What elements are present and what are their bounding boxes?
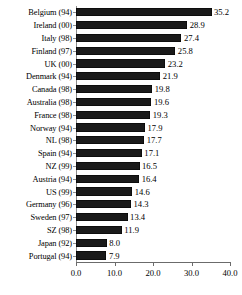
category-label: Belgium (94) [0, 8, 72, 17]
category-label: Ireland (00) [0, 21, 72, 30]
bar-track: 17.7 [76, 134, 230, 147]
bar-value-label: 27.4 [181, 33, 199, 42]
y-axis-tick [73, 38, 76, 39]
category-label: US (99) [0, 187, 72, 196]
bar-row: Japan (92)8.0 [0, 236, 242, 249]
bar [76, 162, 140, 170]
bar-value-label: 19.8 [152, 85, 170, 94]
bar-row: US (99)14.6 [0, 185, 242, 198]
bar [76, 8, 212, 16]
bar-track: 28.9 [76, 19, 230, 32]
bar-value-label: 23.2 [165, 59, 183, 68]
bar-row: Norway (94)17.9 [0, 121, 242, 134]
bar-row: Germany (96)14.3 [0, 198, 242, 211]
bar [76, 149, 142, 157]
bar [76, 123, 145, 131]
category-label: Japan (92) [0, 238, 72, 247]
bar-value-label: 17.1 [142, 149, 160, 158]
y-axis-tick [73, 192, 76, 193]
bar [76, 213, 128, 221]
bar-row: Italy (98)27.4 [0, 32, 242, 45]
y-axis-tick [73, 115, 76, 116]
y-axis-tick [73, 204, 76, 205]
x-axis-tick-label: 30.0 [184, 268, 199, 278]
bar [76, 34, 181, 42]
bar-value-label: 35.2 [212, 8, 230, 17]
y-axis-tick [73, 153, 76, 154]
x-axis-tick-label: 40.0 [222, 268, 237, 278]
bar-row: SZ (98)11.9 [0, 224, 242, 237]
bar [76, 136, 144, 144]
bar-row: Portugal (94)7.9 [0, 249, 242, 262]
bar-track: 19.8 [76, 83, 230, 96]
bar-value-label: 19.3 [150, 110, 168, 119]
bar-row: Austria (94)16.4 [0, 172, 242, 185]
category-label: France (98) [0, 110, 72, 119]
x-axis-tick [115, 262, 116, 266]
category-label: Portugal (94) [0, 251, 72, 260]
category-label: Australia (98) [0, 97, 72, 106]
x-axis-tick-label: 20.0 [145, 268, 160, 278]
category-label: Finland (97) [0, 46, 72, 55]
bar-value-label: 16.4 [139, 174, 157, 183]
bar-track: 8.0 [76, 236, 230, 249]
bar-track: 17.1 [76, 147, 230, 160]
bar-row: France (98)19.3 [0, 108, 242, 121]
bar-value-label: 16.5 [140, 161, 158, 170]
bar-row: UK (00)23.2 [0, 57, 242, 70]
bar-track: 19.6 [76, 96, 230, 109]
x-axis-tick [76, 262, 77, 266]
bar-rows-container: Belgium (94)35.2Ireland (00)28.9Italy (9… [0, 6, 242, 262]
category-label: Germany (96) [0, 200, 72, 209]
y-axis-tick [73, 102, 76, 103]
bar-value-label: 25.8 [175, 46, 193, 55]
x-axis: 0.010.020.030.040.0 [76, 262, 230, 295]
y-axis-tick [73, 230, 76, 231]
bar-row: Denmark (94)21.9 [0, 70, 242, 83]
bar [76, 251, 106, 259]
bar-track: 21.9 [76, 70, 230, 83]
bar [76, 175, 139, 183]
y-axis-tick [73, 179, 76, 180]
y-axis-tick [73, 140, 76, 141]
bar-track: 7.9 [76, 249, 230, 262]
category-label: Norway (94) [0, 123, 72, 132]
bar-row: Australia (98)19.6 [0, 96, 242, 109]
x-axis-tick [153, 262, 154, 266]
bar-track: 14.3 [76, 198, 230, 211]
category-label: Austria (94) [0, 174, 72, 183]
category-label: Denmark (94) [0, 72, 72, 81]
bar-track: 25.8 [76, 44, 230, 57]
y-axis-tick [73, 217, 76, 218]
x-axis-tick [230, 262, 231, 266]
y-axis-tick [73, 256, 76, 257]
bar-track: 19.3 [76, 108, 230, 121]
bar [76, 187, 132, 195]
bar-row: Sweden (97)13.4 [0, 211, 242, 224]
bar-value-label: 7.9 [106, 251, 119, 260]
bar-value-label: 14.3 [131, 200, 149, 209]
bar-track: 17.9 [76, 121, 230, 134]
bar-track: 14.6 [76, 185, 230, 198]
bar-track: 27.4 [76, 32, 230, 45]
category-label: Spain (94) [0, 149, 72, 158]
y-axis-tick [73, 64, 76, 65]
bar [76, 47, 175, 55]
bar [76, 72, 160, 80]
y-axis-tick [73, 76, 76, 77]
bar-row: Finland (97)25.8 [0, 44, 242, 57]
y-axis-tick [73, 51, 76, 52]
category-label: Sweden (97) [0, 213, 72, 222]
bar-track: 11.9 [76, 224, 230, 237]
y-axis-tick [73, 166, 76, 167]
bar [76, 239, 107, 247]
bar-row: Ireland (00)28.9 [0, 19, 242, 32]
category-label: NL (98) [0, 136, 72, 145]
x-axis-tick-label: 10.0 [107, 268, 122, 278]
bar-track: 23.2 [76, 57, 230, 70]
category-label: UK (00) [0, 59, 72, 68]
bar-value-label: 19.6 [151, 97, 169, 106]
bar [76, 200, 131, 208]
bar-value-label: 28.9 [187, 21, 205, 30]
bar-value-label: 11.9 [122, 225, 139, 234]
